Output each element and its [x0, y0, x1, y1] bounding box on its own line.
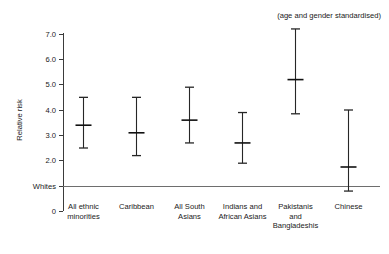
- x-axis-label-2: Caribbean: [119, 202, 154, 211]
- y-axis-title-label: Relative risk: [15, 99, 24, 141]
- x-axis-label-3: Asians: [178, 212, 201, 221]
- x-axis-label-5: Bangladeshis: [273, 221, 319, 230]
- x-axis-label-6: Chinese: [335, 202, 363, 211]
- x-axis-category-labels: All ethnicminoritiesCaribbeanAll SouthAs…: [67, 202, 362, 230]
- y-axis-tick-label-2_0: 2.0: [45, 156, 56, 165]
- error-bar-6: [341, 110, 357, 191]
- x-axis-label-5: and: [289, 212, 302, 221]
- standardisation-annotation: (age and gender standardised): [277, 11, 381, 20]
- error-bar-2: [129, 97, 145, 155]
- y-axis: 7.06.05.04.03.02.0Whites0: [33, 30, 63, 216]
- y-axis-tick-label-0: 0: [52, 207, 56, 216]
- y-axis-tick-label-4_0: 4.0: [45, 106, 56, 115]
- error-bar-1: [76, 97, 92, 148]
- x-axis-label-1: All ethnic: [68, 202, 99, 211]
- y-axis-tick-label-6_0: 6.0: [45, 55, 56, 64]
- x-axis-label-4: African Asians: [218, 212, 266, 221]
- y-axis-tick-label-3_0: 3.0: [45, 131, 56, 140]
- x-axis-label-3: All South: [174, 202, 204, 211]
- x-axis-label-5: Pakistanis: [278, 202, 313, 211]
- y-axis-title: Relative risk: [15, 99, 24, 141]
- x-axis-label-4: Indians and: [223, 202, 262, 211]
- y-axis-tick-label-Whites: Whites: [33, 182, 56, 191]
- error-bar-series: [76, 29, 357, 191]
- chart-canvas: (age and gender standardised) Relative r…: [0, 0, 389, 254]
- y-axis-tick-label-5_0: 5.0: [45, 80, 56, 89]
- y-axis-tick-label-7_0: 7.0: [45, 30, 56, 39]
- error-bar-4: [235, 113, 251, 164]
- error-bar-3: [182, 87, 198, 143]
- relative-risk-error-bar-chart: (age and gender standardised) Relative r…: [0, 0, 389, 254]
- error-bar-5: [288, 29, 304, 114]
- x-axis-label-1: minorities: [67, 212, 100, 221]
